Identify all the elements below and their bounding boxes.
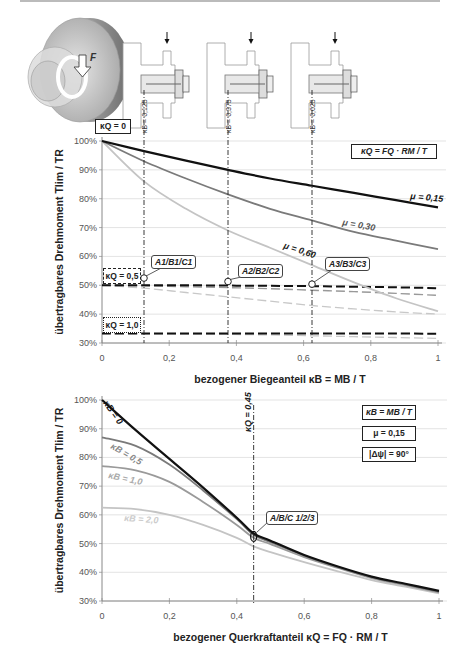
curve-label-kb10: κB = 1,0 <box>108 470 144 487</box>
bottom-chart: 30%40%50%60%70%80%90%100%00,20,40,60,81b… <box>0 0 455 653</box>
y-axis-label: übertragbares Drehmoment Tlim / TR <box>53 407 65 593</box>
x-tick-label: 0,6 <box>298 611 311 621</box>
x-axis-label: bezogener Querkraftanteil κQ = FQ · RM /… <box>173 631 388 643</box>
x-tick-label: 0,2 <box>163 611 176 621</box>
curve-label-kb0: κB = 0 <box>101 398 125 426</box>
y-tick-label: 100% <box>74 395 97 405</box>
kb-formula-box: κB = MB / T <box>362 405 416 420</box>
x-tick-label: 0,4 <box>231 611 244 621</box>
y-tick-label: 80% <box>79 452 97 462</box>
kq-formula-box: κQ = FQ · RM / T <box>351 144 437 159</box>
y-tick-label: 50% <box>79 539 97 549</box>
point-label-a1: A1/B1/C1 <box>151 255 196 269</box>
point-label-abc: A/B/C 1/2/3 <box>266 511 318 525</box>
delta-psi-box: |Δψ| = 90° <box>362 447 416 462</box>
kq-10-box: κQ = 1,0 <box>103 317 141 333</box>
point-label-a3: A3/B3/C3 <box>325 257 370 271</box>
x-tick-label: 1 <box>436 611 441 621</box>
kq-05-box: κQ = 0,5 <box>103 268 141 284</box>
y-tick-label: 30% <box>79 596 97 606</box>
series-line <box>102 466 439 592</box>
x-tick-label: 0,8 <box>365 611 378 621</box>
kq-045-label: κQ = 0,45 <box>243 391 253 432</box>
point-label-a2: A2/B2/C2 <box>238 264 283 278</box>
y-tick-label: 90% <box>79 424 97 434</box>
y-tick-label: 70% <box>79 481 97 491</box>
mu-box: μ = 0,15 <box>362 426 416 441</box>
y-tick-label: 60% <box>79 510 97 520</box>
curve-label-kb20: κB = 2,0 <box>124 513 159 525</box>
curve-label-kb05: κB = 0,5 <box>109 441 145 467</box>
kq-zero-box: κQ = 0 <box>95 119 131 134</box>
x-tick-label: 0 <box>99 611 104 621</box>
y-tick-label: 40% <box>79 567 97 577</box>
